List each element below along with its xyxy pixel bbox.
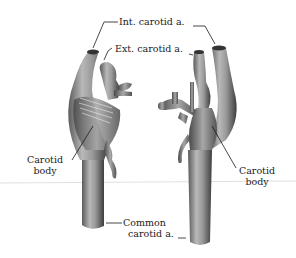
label-ext-carotid: Ext. carotid a.: [115, 43, 183, 54]
label-carotid-body-right-line2: body: [232, 176, 282, 187]
label-carotid-body-left: Carotid body: [20, 154, 70, 176]
label-common-carotid: Common carotid a.: [123, 217, 174, 239]
label-int-carotid: Int. carotid a.: [119, 16, 185, 27]
figure-canvas: Int. carotid a. Ext. carotid a. Carotid …: [0, 0, 296, 258]
label-carotid-body-right: Carotid body: [232, 165, 282, 187]
right-specimen: [158, 46, 237, 246]
label-carotid-body-left-line1: Carotid: [20, 154, 70, 165]
label-common-carotid-line1: Common: [123, 217, 174, 228]
label-common-carotid-line2: carotid a.: [128, 228, 174, 239]
left-specimen: [68, 50, 132, 229]
label-carotid-body-left-line2: body: [20, 165, 70, 176]
label-carotid-body-right-line1: Carotid: [232, 165, 282, 176]
